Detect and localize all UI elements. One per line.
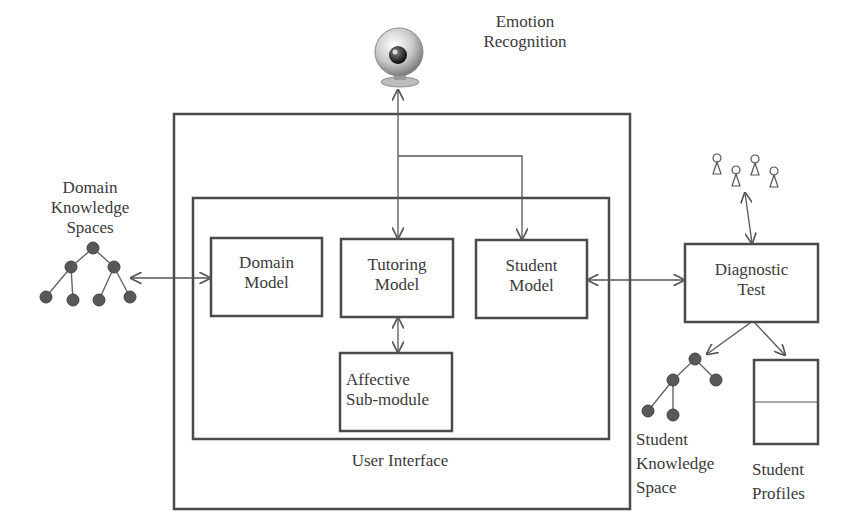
label-line: Affective xyxy=(346,370,450,390)
diagnostic-to-profiles-arrow xyxy=(755,323,785,355)
label-line: Student xyxy=(752,458,842,482)
label-line: Knowledge xyxy=(636,452,746,476)
label-line: Student xyxy=(636,428,746,452)
label-line: Profiles xyxy=(752,482,842,506)
label-line: Sub-module xyxy=(346,390,450,410)
domain-model-label: Domain Model xyxy=(211,253,322,293)
webcam-icon xyxy=(375,28,423,87)
label-line: Model xyxy=(476,276,587,296)
tree-icon xyxy=(642,353,722,421)
label-line: Space xyxy=(636,476,746,500)
label-line: Spaces xyxy=(30,218,150,238)
label-line: Test xyxy=(685,280,818,300)
students-group-icon xyxy=(713,154,778,187)
user-interface-label: User Interface xyxy=(300,451,500,471)
label-line: Domain xyxy=(30,178,150,198)
student-profiles-label: Student Profiles xyxy=(752,458,842,506)
tutoring-model-label: Tutoring Model xyxy=(341,255,453,295)
label-line: Recognition xyxy=(470,32,580,52)
students-diagnostic-arrow xyxy=(745,193,752,243)
label-line: Domain xyxy=(211,253,322,273)
label-line: Model xyxy=(211,273,322,293)
label-line: Student xyxy=(476,256,587,276)
label-line: Model xyxy=(341,275,453,295)
affective-submodule-label: Affective Sub-module xyxy=(346,370,450,410)
label-line: Emotion xyxy=(470,12,580,32)
domain-knowledge-spaces-label: Domain Knowledge Spaces xyxy=(30,178,150,238)
label-line: Knowledge xyxy=(30,198,150,218)
emotion-recognition-label: Emotion Recognition xyxy=(470,12,580,52)
label-line: Tutoring xyxy=(341,255,453,275)
student-knowledge-space-label: Student Knowledge Space xyxy=(636,428,746,500)
student-model-label: Student Model xyxy=(476,256,587,296)
diagnostic-test-label: Diagnostic Test xyxy=(685,260,818,300)
profile-document-icon xyxy=(754,360,818,444)
label-line: Diagnostic xyxy=(685,260,818,280)
tree-icon xyxy=(40,242,136,306)
diagnostic-to-knowledge-arrow xyxy=(707,323,750,354)
